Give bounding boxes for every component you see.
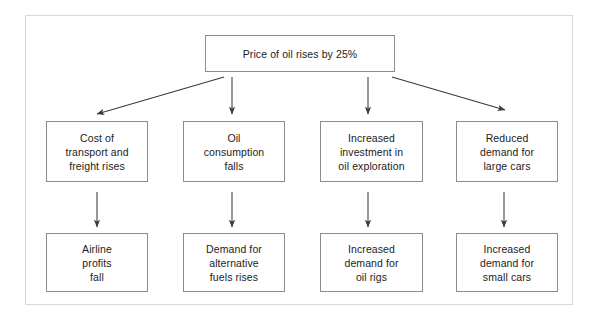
- node-airline-profits: Airline profits fall: [46, 233, 148, 292]
- node-label: Increased investment in oil exploration: [338, 131, 404, 173]
- node-demand-oil-rigs: Increased demand for oil rigs: [320, 233, 423, 292]
- node-demand-small-cars: Increased demand for small cars: [456, 233, 558, 292]
- diagram-canvas: Price of oil rises by 25%Cost of transpo…: [0, 0, 599, 322]
- node-label: Demand for alternative fuels rises: [206, 242, 262, 284]
- node-reduced-demand-large-cars: Reduced demand for large cars: [456, 121, 558, 182]
- node-label: Cost of transport and freight rises: [65, 131, 128, 173]
- node-price-of-oil: Price of oil rises by 25%: [205, 35, 395, 72]
- node-oil-consumption: Oil consumption falls: [183, 121, 285, 182]
- node-label: Reduced demand for large cars: [480, 131, 534, 173]
- node-cost-of-transport: Cost of transport and freight rises: [46, 121, 148, 182]
- node-label: Airline profits fall: [82, 242, 112, 284]
- node-increased-investment: Increased investment in oil exploration: [320, 121, 423, 182]
- node-label: Increased demand for small cars: [480, 242, 534, 284]
- node-label: Increased demand for oil rigs: [344, 242, 398, 284]
- node-demand-alternative-fuels: Demand for alternative fuels rises: [183, 233, 285, 292]
- node-label: Oil consumption falls: [204, 131, 265, 173]
- node-label: Price of oil rises by 25%: [243, 47, 358, 61]
